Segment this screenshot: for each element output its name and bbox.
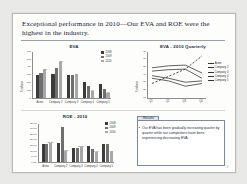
legend-label: 2010	[106, 60, 112, 63]
y-tick-label: 50	[137, 66, 146, 69]
y-tick-label: 10	[137, 97, 146, 100]
legend-item[interactable]: Company 5	[208, 79, 228, 82]
legend-swatch	[101, 60, 104, 62]
y-tick-label: 20.0%	[27, 139, 37, 142]
y-tick-label: 70	[137, 51, 146, 54]
bar	[51, 74, 54, 98]
bar: 9.0%	[95, 152, 98, 162]
y-tick-label: 30	[137, 81, 146, 84]
bar	[83, 82, 86, 98]
bar: 355	[43, 70, 46, 98]
legend-swatch	[101, 51, 104, 53]
legend-item[interactable]: 2008	[105, 122, 116, 125]
legend-label: 2008	[106, 51, 112, 54]
bar: 455	[59, 62, 62, 98]
legend-line	[208, 80, 214, 81]
legend-label: Company 4	[215, 75, 229, 78]
title-divider	[21, 40, 225, 41]
legend-item[interactable]: 2010	[101, 60, 112, 63]
bar	[72, 148, 75, 162]
chart-eva-bar: EVA $ millions 3554559570 200820092010 6…	[19, 44, 129, 106]
page-title: Exceptional performance in 2010—Our EVA …	[22, 20, 222, 37]
y-tick-label: 200	[21, 82, 31, 85]
bar	[57, 143, 60, 162]
bar-group: 9.0%	[87, 123, 98, 162]
y-tick-label: 20	[137, 89, 146, 92]
legend-label: Company 5	[215, 79, 229, 82]
bar: 70	[106, 93, 109, 98]
bar-group: 9.5%	[57, 123, 68, 162]
legend-line	[208, 76, 214, 77]
chart-roe-bar: ROE - 2010 17.5%9.5%13.5%9.0% 2008200920…	[19, 114, 131, 172]
bar-group: 455	[51, 51, 62, 98]
legend-label: 2010	[110, 131, 116, 134]
bar-value-label: 70	[107, 91, 109, 93]
legend-swatch	[105, 122, 108, 124]
bar	[45, 144, 48, 162]
x-axis-label: Q1	[146, 100, 156, 103]
bar: 17.5%	[49, 143, 52, 163]
legend-item[interactable]: 2008	[101, 51, 112, 54]
bar	[103, 89, 106, 98]
bar	[106, 144, 109, 162]
y-tick-label: 500	[21, 59, 31, 62]
bar-group: 95	[83, 51, 94, 98]
results-body-text: Our EVA has been gradually increasing qu…	[142, 126, 220, 140]
y-tick-label: 15.0%	[27, 145, 37, 148]
legend-line	[208, 72, 214, 73]
bar	[76, 148, 79, 162]
chart-title-eva-quarterly: EVA - 2010 Quarterly	[135, 44, 231, 49]
bar-value-label: 9.5%	[63, 149, 68, 151]
legend-item[interactable]: Acme	[208, 62, 228, 65]
x-axis-label: Q4	[196, 100, 206, 103]
bar-value-label: 13.5%	[78, 145, 84, 147]
bar	[110, 151, 113, 162]
y-tick-label: 40	[137, 74, 146, 77]
legend-label: 2009	[110, 126, 116, 129]
bar	[55, 68, 58, 98]
legend-item[interactable]: Company 4	[208, 75, 228, 78]
legend-label: 2009	[106, 55, 112, 58]
bar-group	[67, 51, 78, 98]
bar-group: 17.5%	[42, 123, 53, 162]
y-tick-label: 100	[21, 90, 31, 93]
bar: 9.5%	[64, 151, 67, 162]
legend-roe: 200820092010	[105, 122, 116, 135]
x-axis-label: Company 5	[96, 165, 117, 168]
legend-label: Company 2	[215, 66, 229, 69]
bar	[71, 75, 74, 99]
legend-line	[208, 67, 214, 68]
y-tick-label: 25.0%	[27, 134, 37, 137]
bar	[102, 144, 105, 162]
plot-area-eva: 3554559570	[32, 52, 111, 99]
legend-item[interactable]: Company 2	[208, 66, 228, 69]
bar: 13.5%	[80, 147, 83, 162]
x-axis-label: Company 5	[92, 101, 114, 104]
page-number: 3	[226, 165, 228, 169]
legend-item[interactable]: 2010	[105, 131, 116, 134]
bar	[39, 73, 42, 98]
plot-area-roe: 17.5%9.5%13.5%9.0%	[38, 124, 114, 163]
legend-item[interactable]: Company 3	[208, 71, 228, 74]
legend-eva: 200820092010	[101, 51, 112, 64]
chart-eva-quarterly: EVA - 2010 Quarterly $ millions AcmeComp…	[135, 44, 231, 106]
legend-swatch	[105, 131, 108, 133]
bar-group: 355	[36, 51, 47, 98]
bar	[67, 75, 70, 98]
slide-canvas: Exceptional performance in 2010—Our EVA …	[12, 13, 236, 173]
bar-value-label: 455	[59, 60, 63, 62]
results-tab-label[interactable]: Results	[137, 116, 159, 121]
bar: 95	[91, 91, 94, 98]
legend-label: 2008	[110, 122, 116, 125]
bar-value-label: 355	[43, 68, 47, 70]
chart-title-eva: EVA	[19, 44, 129, 49]
section-divider	[21, 110, 225, 111]
legend-label: Acme	[215, 62, 222, 65]
y-tick-label: 600	[21, 51, 31, 54]
legend-item[interactable]: 2009	[105, 126, 116, 129]
legend-item[interactable]: 2009	[101, 55, 112, 58]
bar	[36, 75, 39, 99]
y-tick-label: 5.0%	[27, 156, 37, 159]
legend-swatch	[105, 127, 108, 129]
bar-value-label: 95	[91, 89, 93, 91]
